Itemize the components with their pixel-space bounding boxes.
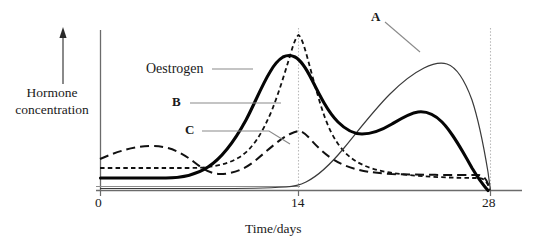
- series-label-a: A: [371, 10, 380, 23]
- y-axis-label-line1: Hormone: [10, 85, 94, 102]
- curve-c: [100, 131, 490, 190]
- x-tick-label-14: 14: [291, 196, 305, 210]
- y-axis-label-line2: concentration: [10, 102, 94, 119]
- curve-a: [100, 63, 491, 190]
- leader-line-c: [202, 131, 290, 144]
- chart-canvas: [0, 0, 540, 248]
- series-label-c: C: [185, 123, 194, 136]
- leader-line-a: [385, 22, 420, 52]
- x-tick-label-28: 28: [482, 196, 496, 210]
- series-label-b: B: [172, 95, 181, 108]
- x-tick-label-0: 0: [95, 196, 102, 210]
- series-label-oestrogen: Oestrogen: [146, 62, 204, 76]
- x-axis-label: Time/days: [245, 222, 302, 236]
- hormone-concentration-chart: Hormone concentration Oestrogen B C A 0 …: [0, 0, 540, 248]
- y-axis-label: Hormone concentration: [10, 85, 94, 119]
- up-arrow-icon: [59, 27, 66, 84]
